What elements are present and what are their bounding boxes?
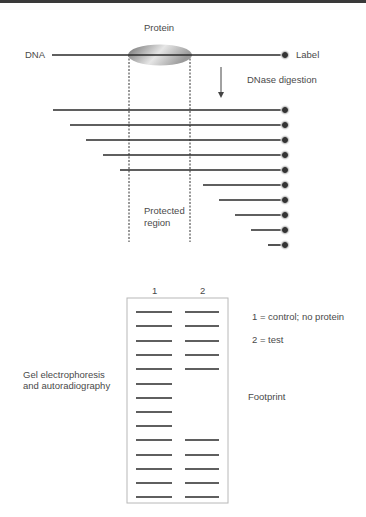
fragment bbox=[203, 180, 291, 191]
digestion-fragments bbox=[53, 105, 291, 251]
radiolabel-dot-icon bbox=[280, 150, 291, 161]
gel-label-2: and autoradiography bbox=[23, 380, 110, 391]
protected-region-label-1: Protected bbox=[144, 205, 185, 216]
gel bbox=[127, 298, 228, 503]
lane-2-label: 2 bbox=[200, 285, 205, 296]
legend-test: 2 = test bbox=[252, 334, 283, 345]
fragment bbox=[120, 165, 291, 176]
radiolabel-dot-icon bbox=[280, 135, 291, 146]
fragment bbox=[86, 135, 291, 146]
radiolabel-dot-icon bbox=[280, 180, 291, 191]
radiolabel-dot-icon bbox=[280, 225, 291, 236]
legend-control: 1 = control; no protein bbox=[252, 311, 344, 322]
radiolabel-dot-icon bbox=[280, 50, 291, 61]
fragment bbox=[53, 105, 291, 116]
radiolabel-dot-icon bbox=[280, 105, 291, 116]
footprint-label: Footprint bbox=[248, 391, 286, 402]
digestion-arrow-icon bbox=[218, 67, 224, 98]
fragment bbox=[103, 150, 291, 161]
dna-strand bbox=[52, 45, 291, 66]
gel-label-1: Gel electrophoresis bbox=[23, 369, 105, 380]
radiolabel-dot-icon bbox=[280, 165, 291, 176]
dna-label: DNA bbox=[25, 49, 45, 60]
dnase-digestion-label: DNase digestion bbox=[247, 74, 317, 85]
lane-1-label: 1 bbox=[152, 285, 157, 296]
gel-box bbox=[127, 298, 228, 503]
fragment bbox=[251, 225, 291, 236]
label-label: Label bbox=[296, 49, 319, 60]
radiolabel-dot-icon bbox=[280, 120, 291, 131]
radiolabel-dot-icon bbox=[280, 240, 291, 251]
fragment bbox=[219, 195, 291, 206]
fragment bbox=[235, 210, 291, 221]
fragment bbox=[70, 120, 291, 131]
radiolabel-dot-icon bbox=[280, 210, 291, 221]
radiolabel-dot-icon bbox=[280, 195, 291, 206]
protein-label: Protein bbox=[144, 22, 174, 33]
fragment bbox=[268, 240, 291, 251]
protected-region-label-2: region bbox=[144, 217, 170, 228]
